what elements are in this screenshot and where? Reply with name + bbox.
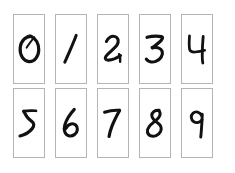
handwritten-digit-7-icon xyxy=(98,89,128,157)
digit-card-5[interactable]: 5 xyxy=(13,88,45,158)
handwritten-digit-5-icon xyxy=(14,89,44,157)
handwritten-digit-3-icon xyxy=(140,15,170,83)
digit-board: 0 1 2 xyxy=(0,0,235,173)
digit-card-grid: 0 1 2 xyxy=(13,14,213,158)
handwritten-digit-0-icon xyxy=(14,15,44,83)
handwritten-digit-9-icon xyxy=(182,89,212,157)
digit-card-9[interactable]: 9 xyxy=(181,88,213,158)
handwritten-digit-4-icon xyxy=(182,15,212,83)
digit-card-3[interactable]: 3 xyxy=(139,14,171,84)
digit-card-0[interactable]: 0 xyxy=(13,14,45,84)
handwritten-digit-1-icon xyxy=(56,15,86,83)
digit-card-2[interactable]: 2 xyxy=(97,14,129,84)
handwritten-digit-6-icon xyxy=(56,89,86,157)
digit-card-7[interactable]: 7 xyxy=(97,88,129,158)
digit-card-1[interactable]: 1 xyxy=(55,14,87,84)
digit-card-4[interactable]: 4 xyxy=(181,14,213,84)
handwritten-digit-8-icon xyxy=(140,89,170,157)
handwritten-digit-2-icon xyxy=(98,15,128,83)
digit-card-6[interactable]: 6 xyxy=(55,88,87,158)
digit-card-8[interactable]: 8 xyxy=(139,88,171,158)
